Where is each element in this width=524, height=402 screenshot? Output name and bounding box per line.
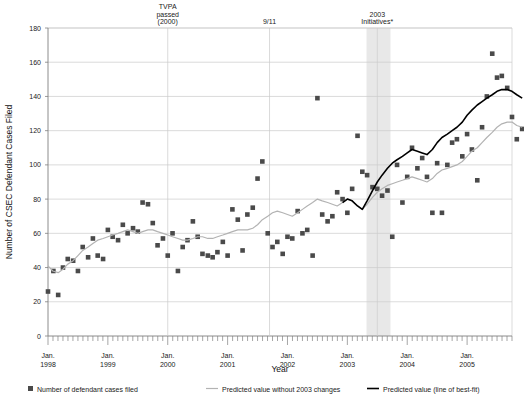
x-axis-tick-label: Jan. xyxy=(460,352,473,359)
data-point-marker xyxy=(355,134,360,139)
data-point-marker xyxy=(480,125,485,130)
data-point-marker xyxy=(260,159,265,164)
data-point-marker xyxy=(495,75,500,80)
legend-label-scatter: Number of defendant cases filed xyxy=(37,386,138,393)
data-point-marker xyxy=(106,228,111,233)
data-point-marker xyxy=(101,257,106,262)
legend-label-predicted-without: Predicted value without 2003 changes xyxy=(222,386,341,394)
data-point-marker xyxy=(161,236,166,241)
data-point-marker xyxy=(330,214,335,219)
data-point-marker xyxy=(146,202,151,207)
data-point-marker xyxy=(200,252,205,257)
data-point-marker xyxy=(290,236,295,241)
y-axis-tick-label: 180 xyxy=(29,25,41,32)
legend-marker-scatter xyxy=(28,386,33,391)
data-point-marker xyxy=(225,253,230,258)
data-point-marker xyxy=(86,255,91,260)
data-point-marker xyxy=(245,212,250,217)
data-point-marker xyxy=(385,188,390,193)
data-point-marker xyxy=(475,178,480,183)
data-point-marker xyxy=(500,74,505,79)
data-point-marker xyxy=(215,250,220,255)
data-point-marker xyxy=(65,257,70,262)
data-point-marker xyxy=(455,137,460,142)
data-point-marker xyxy=(514,137,519,142)
data-point-marker xyxy=(265,231,270,236)
data-point-marker xyxy=(345,211,350,216)
x-axis-tick-label: Jan. xyxy=(101,352,114,359)
data-point-marker xyxy=(390,234,395,239)
y-axis-tick-label: 100 xyxy=(29,161,41,168)
data-point-marker xyxy=(510,115,515,120)
data-point-marker xyxy=(275,240,280,245)
x-axis-tick-label: Jan. xyxy=(41,352,54,359)
data-point-marker xyxy=(425,175,430,180)
y-axis-tick-label: 80 xyxy=(33,196,41,203)
x-axis-tick-label: 2005 xyxy=(459,361,475,368)
data-point-marker xyxy=(450,140,455,145)
x-axis-tick-label: 2000 xyxy=(160,361,176,368)
data-point-marker xyxy=(210,255,215,260)
data-point-marker xyxy=(116,238,121,243)
data-point-marker xyxy=(91,236,96,241)
x-axis-tick-label: Jan. xyxy=(341,352,354,359)
data-point-marker xyxy=(191,219,196,224)
data-point-marker xyxy=(131,226,136,231)
data-point-marker xyxy=(465,132,470,137)
data-point-marker xyxy=(230,207,235,212)
y-axis-tick-label: 120 xyxy=(29,127,41,134)
data-point-marker xyxy=(240,248,245,253)
x-axis-tick-label: 2003 xyxy=(340,361,356,368)
y-axis-tick-label: 20 xyxy=(33,298,41,305)
data-point-marker xyxy=(440,211,445,216)
data-point-marker xyxy=(56,293,61,298)
data-point-marker xyxy=(140,200,145,205)
data-point-marker xyxy=(490,51,495,56)
y-axis-tick-label: 40 xyxy=(33,264,41,271)
data-point-marker xyxy=(255,176,260,181)
data-point-marker xyxy=(320,212,325,217)
y-axis-tick-label: 160 xyxy=(29,59,41,66)
x-axis-tick-label: 2001 xyxy=(220,361,236,368)
data-point-marker xyxy=(46,289,51,294)
data-point-marker xyxy=(365,173,370,178)
x-axis-tick-label: Jan. xyxy=(221,352,234,359)
y-axis-tick-label: 140 xyxy=(29,93,41,100)
data-point-marker xyxy=(121,222,126,227)
data-point-marker xyxy=(310,253,315,258)
data-point-marker xyxy=(235,217,240,222)
data-point-marker xyxy=(125,231,130,236)
data-point-marker xyxy=(445,163,450,168)
data-point-marker xyxy=(150,221,155,226)
data-point-marker xyxy=(221,240,226,245)
data-point-marker xyxy=(206,253,211,258)
data-point-marker xyxy=(155,243,160,248)
annotation-label-tvpa: (2000) xyxy=(158,18,178,26)
data-point-marker xyxy=(400,200,405,205)
annotation-label-initiatives-2003: Initiatives* xyxy=(361,18,393,25)
data-point-marker xyxy=(395,163,400,168)
data-point-marker xyxy=(280,252,285,257)
data-point-marker xyxy=(80,245,85,250)
data-point-marker xyxy=(430,211,435,216)
y-axis-title: Number of CSEC Defendant Cases Filed xyxy=(4,104,14,259)
data-point-marker xyxy=(165,253,170,258)
data-point-marker xyxy=(460,154,465,159)
data-point-marker xyxy=(325,219,330,224)
shaded-band-2003 xyxy=(367,28,391,336)
x-axis-tick-label: 2004 xyxy=(399,361,415,368)
legend-label-best-fit: Predicted value (line of best-fit) xyxy=(383,386,480,394)
data-point-marker xyxy=(380,193,385,198)
data-point-marker xyxy=(270,245,275,250)
data-point-marker xyxy=(76,269,81,274)
data-point-marker xyxy=(176,269,181,274)
data-point-marker xyxy=(170,231,175,236)
data-point-marker xyxy=(435,161,440,166)
x-axis-tick-label: 1999 xyxy=(100,361,116,368)
data-point-marker xyxy=(305,228,310,233)
annotation-label-tvpa: TVPA xyxy=(159,3,177,10)
x-axis-tick-label: Jan. xyxy=(281,352,294,359)
data-point-marker xyxy=(95,253,100,258)
annotation-label-nine-eleven: 9/11 xyxy=(263,18,276,25)
data-point-marker xyxy=(335,190,340,195)
